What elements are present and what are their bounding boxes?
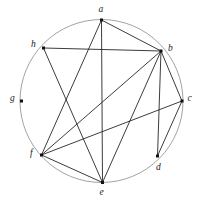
vertex-h [42, 47, 45, 50]
edge-a-f [42, 20, 102, 155]
edge-b-f [42, 51, 162, 155]
edge-group [42, 20, 183, 183]
edge-e-h [44, 48, 103, 183]
vertex-label-g: g [10, 94, 15, 104]
vertex-label-h: h [31, 40, 36, 50]
vertex-label-d: d [156, 163, 161, 173]
vertex-d [156, 155, 159, 158]
vertex-b [160, 50, 163, 53]
vertex-f [40, 154, 43, 157]
vertex-label-a: a [99, 5, 104, 15]
vertex-c [181, 100, 184, 103]
edge-a-e [102, 20, 103, 183]
graph-canvas [0, 0, 198, 204]
vertex-e [101, 181, 104, 184]
vertex-label-f: f [30, 149, 33, 159]
vertex-label-b: b [168, 44, 173, 54]
vertex-a [100, 19, 103, 22]
graph-diagram: abcdefgh [0, 0, 198, 204]
edge-b-d [158, 51, 162, 156]
edge-e-f [42, 155, 103, 183]
edge-c-f [42, 101, 183, 155]
vertex-label-c: c [188, 94, 192, 104]
vertex-label-e: e [100, 188, 104, 198]
vertex-g [20, 100, 23, 103]
edge-a-b [102, 20, 162, 51]
edge-b-h [44, 48, 162, 51]
edge-b-e [103, 51, 162, 183]
